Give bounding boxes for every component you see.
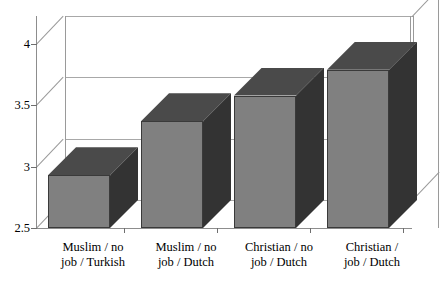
y-tick-3-5: 3.5 xyxy=(0,99,30,111)
depth-edge-3-5 xyxy=(36,77,63,106)
y-tick-label-2-5: 2.5 xyxy=(14,222,30,235)
y-tick-mark-3-5 xyxy=(31,105,37,106)
y-tick-2-5: 2.5 xyxy=(0,222,30,234)
y-tick-label-3: 3 xyxy=(24,161,30,174)
bar-column xyxy=(141,93,231,228)
y-tick-3: 3 xyxy=(0,161,30,173)
x-axis-category-label-line: Christian / xyxy=(313,240,431,255)
bar-front-face xyxy=(327,70,389,228)
front-right-edge xyxy=(438,0,439,228)
x-tick xyxy=(217,228,218,233)
bar-column xyxy=(48,147,138,228)
y-tick-label-4: 4 xyxy=(24,38,30,51)
y-axis-line xyxy=(36,16,37,228)
x-tick xyxy=(124,228,125,233)
bar-column xyxy=(234,68,324,228)
y-tick-4: 4 xyxy=(0,38,30,50)
bar-front-face xyxy=(234,96,296,228)
x-tick xyxy=(310,228,311,233)
depth-edge-right-top xyxy=(412,0,439,17)
y-tick-mark-3 xyxy=(31,167,37,168)
bar-side-face xyxy=(389,42,417,228)
x-axis-baseline xyxy=(37,228,412,229)
y-tick-label-3-5: 3.5 xyxy=(14,99,30,112)
x-axis-category-label: Christian /job / Dutch xyxy=(313,240,431,270)
bar-column xyxy=(327,42,417,228)
gridline-4 xyxy=(66,16,412,17)
x-axis-category-label-line: job / Dutch xyxy=(313,255,431,270)
bar-chart: 4 3.5 3 2.5 Muslim / nojob / TurkishMusl… xyxy=(0,0,440,289)
y-tick-mark-4 xyxy=(31,44,37,45)
bar-side-face xyxy=(296,68,324,228)
y-tick-mark-2-5 xyxy=(31,228,37,229)
bar-front-face xyxy=(141,121,203,228)
x-tick xyxy=(403,228,404,233)
bar-front-face xyxy=(48,175,110,228)
depth-edge-4 xyxy=(36,16,63,45)
